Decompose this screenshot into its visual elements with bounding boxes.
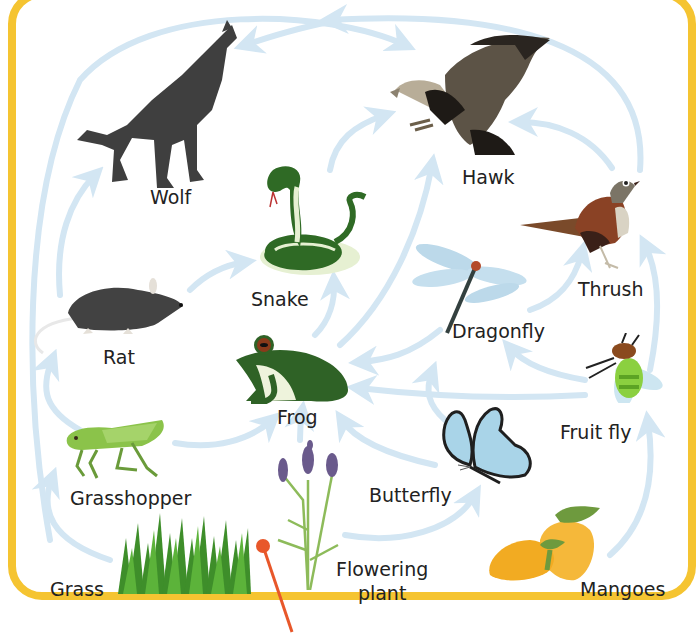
arrow-grasshopper-to-frog	[175, 420, 272, 445]
grasshopper-illustration	[62, 418, 167, 484]
hawk-illustration	[385, 30, 555, 160]
arrow-fruitfly-to-dragonfly	[510, 348, 585, 380]
wolf-illustration	[72, 20, 242, 195]
label-frog: Frog	[277, 406, 318, 428]
butterfly-illustration	[440, 405, 535, 485]
label-butterfly: Butterfly	[369, 484, 452, 506]
label-snake: Snake	[251, 288, 309, 310]
label-hawk: Hawk	[462, 166, 514, 188]
arrow-rat-to-snake	[190, 262, 245, 290]
arrow-frog-to-snake	[315, 282, 334, 335]
label-flowering-plant-line1: Flowering	[336, 557, 428, 581]
label-mangoes: Mangoes	[580, 578, 665, 600]
frog-illustration	[236, 335, 352, 405]
arrow-hawk-to-wolf	[245, 20, 340, 45]
mangoes-illustration	[485, 500, 605, 585]
arrow-fruitfly-to-frog	[358, 388, 585, 397]
label-dragonfly: Dragonfly	[452, 320, 545, 342]
label-grasshopper: Grasshopper	[70, 487, 191, 509]
label-thrush: Thrush	[578, 278, 643, 300]
label-fruit-fly: Fruit fly	[560, 421, 631, 443]
label-rat: Rat	[103, 346, 135, 368]
arrow-butterfly-to-frog	[342, 420, 435, 465]
grass-illustration	[118, 508, 251, 594]
thrush-illustration	[520, 168, 640, 273]
fruit-fly-illustration	[584, 333, 669, 403]
label-grass: Grass	[50, 578, 104, 600]
label-flowering-plant-line2: plant	[336, 581, 428, 605]
label-wolf: Wolf	[150, 186, 191, 208]
label-flowering-plant: Flowering plant	[336, 557, 428, 605]
snake-illustration	[255, 162, 370, 280]
flowering-plant-illustration	[268, 440, 346, 590]
